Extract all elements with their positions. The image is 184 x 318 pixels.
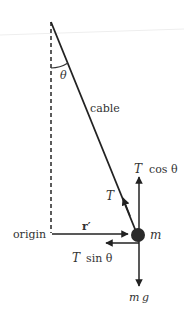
weight-m-label: m (129, 291, 139, 304)
tension-arrow (123, 198, 130, 216)
mass-bob (131, 228, 145, 242)
origin-label: origin (13, 228, 46, 241)
tension-label: T (106, 189, 115, 203)
weight-g-label: g (142, 291, 149, 304)
r-prime-label: r′ (82, 220, 91, 233)
theta-label: θ (60, 69, 67, 82)
theta-arc (51, 63, 68, 68)
scan-artifact (0, 29, 184, 35)
t-sin-t-label: T (72, 251, 81, 265)
t-cos-label: cos θ (149, 163, 178, 176)
mass-label: m (150, 228, 161, 242)
free-body-diagram: θ cable T T cos θ r′ origin T sin θ m g … (0, 0, 184, 318)
t-cos-t-label: T (134, 162, 143, 176)
t-sin-label: sin θ (86, 252, 113, 265)
cable-label: cable (90, 102, 120, 115)
